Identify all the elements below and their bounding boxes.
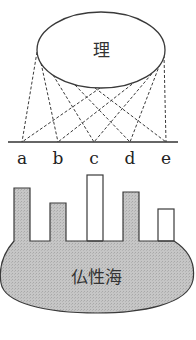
point-label-c: c	[89, 148, 99, 168]
point-label-d: d	[125, 148, 136, 168]
bar-e	[158, 209, 174, 243]
point-label-e: e	[161, 148, 171, 168]
li-label: 理	[93, 40, 110, 60]
li-buddha-nature-diagram: 理 a b c d e 仏性海	[0, 0, 196, 340]
bar-c	[87, 175, 103, 243]
buddha-nature-sea-label: 仏性海	[71, 267, 122, 287]
point-label-b: b	[53, 148, 64, 168]
point-label-a: a	[17, 148, 27, 168]
